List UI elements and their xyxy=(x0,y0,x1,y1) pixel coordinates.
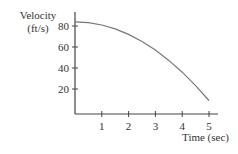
y-axis-label: Velocity (ft/s) xyxy=(20,9,57,35)
x-tick-label: 1 xyxy=(99,120,105,132)
y-tick-label: 60 xyxy=(58,41,70,53)
y-axis-label-line-1: Velocity xyxy=(20,9,57,21)
x-tick-label: 3 xyxy=(153,120,159,132)
x-tick-label: 2 xyxy=(126,120,132,132)
y-axis-label-line-2: (ft/s) xyxy=(27,22,49,35)
y-tick-label: 20 xyxy=(58,83,70,95)
velocity-curve xyxy=(75,22,209,101)
velocity-time-chart: Velocity (ft/s) 20406080 12345 Time (sec… xyxy=(0,0,238,154)
chart-canvas: Velocity (ft/s) 20406080 12345 Time (sec… xyxy=(0,0,238,154)
y-tick-label: 40 xyxy=(58,62,70,74)
x-axis-label: Time (sec) xyxy=(182,131,229,144)
y-tick-label: 80 xyxy=(58,20,70,32)
